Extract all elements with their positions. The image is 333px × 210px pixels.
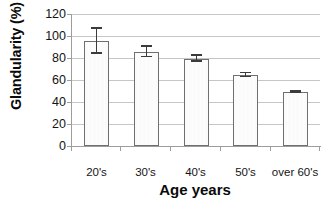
error-bar-cap-upper bbox=[191, 54, 202, 56]
y-tick-label-0: 0 bbox=[0, 140, 66, 153]
x-tick-5 bbox=[319, 146, 320, 151]
x-tick-3 bbox=[220, 146, 221, 151]
error-bar-cap-lower bbox=[240, 76, 251, 78]
y-tick-100 bbox=[67, 36, 72, 37]
bar-over-60s bbox=[283, 92, 308, 146]
y-tick-label-80: 80 bbox=[0, 52, 66, 65]
x-tick-2 bbox=[170, 146, 171, 151]
x-category-label-40s: 40's bbox=[171, 166, 220, 178]
x-tick-1 bbox=[120, 146, 121, 151]
error-bar-stem bbox=[96, 28, 98, 53]
x-category-label-20s: 20's bbox=[72, 166, 121, 178]
y-tick-80 bbox=[67, 58, 72, 59]
bar-chart: Glandularity (%) 120 100 80 60 40 20 0 bbox=[0, 0, 333, 210]
y-axis-tick-labels: 120 100 80 60 40 20 0 bbox=[0, 0, 66, 210]
gridline-100 bbox=[72, 36, 320, 37]
bar-30s bbox=[134, 52, 159, 146]
y-tick-20 bbox=[67, 124, 72, 125]
error-bar-cap-upper bbox=[141, 45, 152, 47]
gridline-120 bbox=[72, 14, 320, 15]
y-tick-60 bbox=[67, 80, 72, 81]
error-bar-cap-lower bbox=[141, 56, 152, 58]
bar-40s bbox=[184, 59, 209, 147]
x-category-label-50s: 50's bbox=[221, 166, 270, 178]
y-tick-40 bbox=[67, 102, 72, 103]
error-bar-cap-lower bbox=[191, 60, 202, 62]
y-tick-label-20: 20 bbox=[0, 118, 66, 131]
x-axis-title: Age years bbox=[159, 181, 231, 198]
bar-50s bbox=[233, 75, 258, 146]
x-category-label-over-60s: over 60's bbox=[270, 166, 320, 178]
y-tick-120 bbox=[67, 14, 72, 15]
error-bar-cap-lower bbox=[290, 92, 301, 94]
error-bar-cap-upper bbox=[91, 27, 102, 29]
error-bar-cap-lower bbox=[91, 52, 102, 54]
error-bar-cap-upper bbox=[240, 72, 251, 74]
x-tick-4 bbox=[270, 146, 271, 151]
x-tick-0 bbox=[71, 146, 72, 151]
bar-20s bbox=[84, 41, 109, 146]
y-tick-label-100: 100 bbox=[0, 30, 66, 43]
x-axis-line bbox=[71, 146, 321, 147]
y-tick-label-120: 120 bbox=[0, 8, 66, 21]
y-tick-label-60: 60 bbox=[0, 74, 66, 87]
y-tick-label-40: 40 bbox=[0, 96, 66, 109]
x-axis-title-wrap: Age years bbox=[60, 181, 330, 199]
plot-area: 20's 30's 40's 50's over 60's bbox=[72, 14, 320, 146]
x-category-label-30s: 30's bbox=[121, 166, 170, 178]
